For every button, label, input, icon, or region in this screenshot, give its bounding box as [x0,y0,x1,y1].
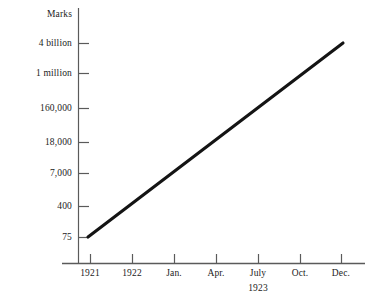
data-series-line [88,43,343,237]
y-tick-label-7000: 7,000 [50,168,72,178]
y-tick-label-400: 400 [57,201,72,211]
x-tick-label-1922: 1922 [122,268,142,279]
x-axis-year-label: 1923 [248,283,268,294]
x-tick-label-apr: Apr. [207,268,224,279]
x-tick-label-oct: Oct. [292,268,309,279]
y-tick-label-1-million: 1 million [36,68,72,78]
x-axis-ticks [91,254,342,263]
y-axis-ticks [79,44,90,238]
x-tick-label-dec: Dec. [332,268,350,279]
y-tick-label-75: 75 [62,232,72,242]
x-tick-label-1921: 1921 [80,268,100,279]
y-tick-label-18000: 18,000 [45,137,72,147]
x-tick-label-july: July [250,268,266,279]
y-tick-label-4-billion: 4 billion [39,38,72,48]
y-axis-title: Marks [47,9,72,19]
y-tick-label-160000: 160,000 [40,103,72,113]
chart-container: Marks 4 billion 1 million 160,000 18,000… [0,0,368,306]
x-tick-label-jan: Jan. [166,268,182,279]
